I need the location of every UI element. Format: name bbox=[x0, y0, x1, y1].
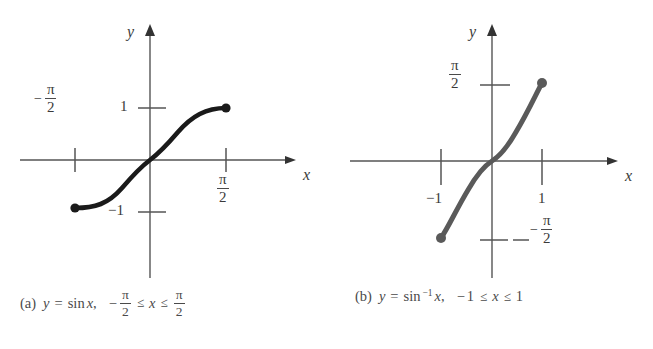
arcsin-curve-endpoint-upper bbox=[537, 78, 547, 88]
x-axis-arrowhead bbox=[285, 156, 296, 164]
caption-comma-b: , bbox=[441, 288, 445, 305]
caption-function-a: sin bbox=[68, 295, 85, 312]
caption-equals-a: = bbox=[55, 295, 63, 312]
x-axis-label: x bbox=[624, 167, 632, 184]
sin-curve-endpoint-left bbox=[70, 203, 79, 212]
panel-arcsin-graph: x y π 2 − π bbox=[330, 0, 653, 280]
caption-lhs-b: y bbox=[379, 288, 385, 305]
caption-lhs-a: y bbox=[43, 295, 49, 312]
y-axis-label: y bbox=[467, 23, 477, 41]
y-axis-arrowhead bbox=[145, 24, 155, 36]
sin-graph-svg: x y bbox=[0, 0, 330, 280]
caption-relation-2-b: ≤ bbox=[504, 289, 511, 305]
y-axis-label: y bbox=[125, 23, 135, 41]
caption-right-value-b: 1 bbox=[516, 288, 523, 305]
caption-left-fraction-a: π 2 bbox=[120, 288, 131, 319]
arcsin-graph-svg: x y bbox=[330, 0, 653, 280]
caption-sin: (a) y = sin x , − π 2 ≤ x ≤ π 2 bbox=[20, 288, 186, 319]
x-tick-label-pos-one: 1 bbox=[538, 190, 546, 207]
caption-relation-1-b: ≤ bbox=[480, 289, 487, 305]
y-tick-label-neg-one: −1 bbox=[108, 202, 124, 219]
y-tick-label-pos-half-pi: π 2 bbox=[448, 58, 462, 92]
x-tick-label-neg-one: −1 bbox=[426, 190, 442, 207]
caption-relation-2-a: ≤ bbox=[160, 295, 167, 311]
caption-comma-a: , bbox=[93, 295, 97, 312]
caption-equals-b: = bbox=[390, 288, 398, 305]
caption-left-value-b: 1 bbox=[467, 288, 474, 305]
y-axis-arrowhead bbox=[487, 24, 497, 36]
caption-function-b: sin bbox=[404, 288, 421, 305]
caption-left-sign-a: − bbox=[109, 295, 117, 312]
sin-curve-endpoint-right bbox=[221, 103, 230, 112]
x-axis-arrowhead bbox=[607, 157, 618, 165]
caption-relation-1-a: ≤ bbox=[137, 295, 144, 311]
caption-tag-a: (a) bbox=[20, 295, 36, 312]
x-tick-label-pos-half-pi: π 2 bbox=[216, 172, 230, 206]
caption-right-fraction-a: π 2 bbox=[174, 288, 185, 319]
x-tick-label-neg-half-pi: − π 2 bbox=[34, 82, 57, 116]
arcsin-curve-endpoint-lower bbox=[436, 233, 446, 243]
y-tick-label-pos-one: 1 bbox=[120, 98, 128, 115]
caption-superscript-b: −1 bbox=[422, 288, 432, 298]
caption-tag-b: (b) bbox=[355, 288, 372, 305]
caption-variable-b: x bbox=[492, 288, 498, 305]
figure-container: x y − π 2 π bbox=[0, 0, 653, 349]
x-axis-label: x bbox=[302, 166, 310, 183]
caption-left-sign-b: − bbox=[457, 288, 465, 305]
y-tick-label-neg-half-pi: − π 2 bbox=[530, 213, 553, 247]
caption-arcsin: (b) y = sin −1 x , − 1 ≤ x ≤ 1 bbox=[355, 288, 524, 305]
panel-sin-graph: x y − π 2 π bbox=[0, 0, 330, 280]
caption-variable-a: x bbox=[149, 295, 155, 312]
